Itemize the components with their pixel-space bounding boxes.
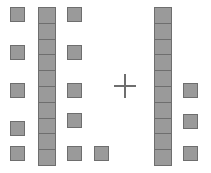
unit-block [183,146,198,161]
rod-cell [39,134,55,150]
ten-rod [38,7,56,166]
rod-cell [155,134,171,150]
unit-block [10,146,25,161]
rod-cell [155,55,171,71]
rod-cell [155,87,171,103]
rod-cell [155,8,171,24]
unit-block [10,121,25,136]
rod-cell [39,87,55,103]
unit-block [10,83,25,98]
unit-block [67,45,82,60]
unit-block [67,113,82,128]
rod-cell [155,71,171,87]
rod-cell [39,103,55,119]
unit-block [94,146,109,161]
rod-cell [39,24,55,40]
rod-cell [39,40,55,56]
rod-cell [155,150,171,165]
unit-block [10,45,25,60]
rod-cell [155,40,171,56]
rod-cell [39,8,55,24]
rod-cell [39,119,55,135]
rod-cell [155,119,171,135]
unit-block [67,146,82,161]
rod-cell [39,55,55,71]
unit-block [10,7,25,22]
rod-cell [155,24,171,40]
unit-block [183,114,198,129]
unit-block [67,7,82,22]
rod-cell [155,103,171,119]
plus-operator-icon [114,74,136,98]
unit-block [67,83,82,98]
base-ten-blocks-diagram [0,0,211,173]
unit-block [183,83,198,98]
ten-rod [154,7,172,166]
rod-cell [39,150,55,165]
rod-cell [39,71,55,87]
plus-vertical-bar [124,74,126,98]
